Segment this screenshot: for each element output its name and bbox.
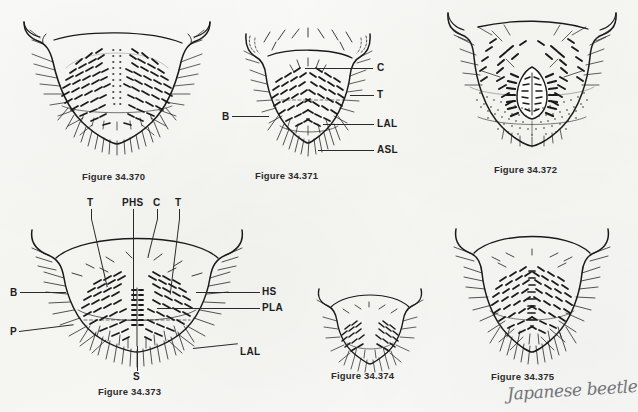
label-t-371: T bbox=[377, 89, 383, 100]
label-b-373: B bbox=[10, 287, 18, 298]
leader-line-phs-373 bbox=[133, 209, 134, 301]
caption-34-373: Figure 34.373 bbox=[98, 386, 161, 397]
label-phs-373: PHS bbox=[122, 197, 143, 208]
caption-34-370: Figure 34.370 bbox=[82, 171, 145, 182]
caption-34-372: Figure 34.372 bbox=[494, 164, 557, 175]
scanned-plate-page: Figure 34.370 bbox=[0, 0, 638, 412]
leader-line-asl-371 bbox=[318, 150, 374, 151]
figure-34-372 bbox=[432, 5, 632, 160]
caption-34-374: Figure 34.374 bbox=[331, 370, 394, 381]
leader-line-t-left-373 bbox=[91, 209, 92, 219]
label-lal-373: LAL bbox=[240, 346, 260, 357]
label-t-left-373: T bbox=[87, 197, 93, 208]
label-s-373: S bbox=[133, 371, 140, 382]
figure-34-370 bbox=[10, 10, 225, 165]
leader-line-b-373 bbox=[20, 292, 66, 293]
caption-34-371: Figure 34.371 bbox=[255, 170, 318, 181]
label-c-371: C bbox=[377, 62, 385, 73]
leader-line-lal-371 bbox=[323, 124, 374, 125]
figure-34-375 bbox=[442, 223, 622, 368]
leader-line-pla-373 bbox=[157, 308, 260, 309]
leader-line-c-373 bbox=[157, 209, 158, 219]
leader-line-b-371 bbox=[232, 116, 269, 117]
leader-line-hs-373 bbox=[196, 292, 260, 293]
label-t-right-373: T bbox=[175, 197, 181, 208]
label-hs-373: HS bbox=[262, 286, 277, 297]
label-asl-371: ASL bbox=[377, 144, 398, 155]
label-b-371: B bbox=[222, 111, 230, 122]
figure-34-371 bbox=[228, 20, 388, 165]
leader-line-t-371 bbox=[350, 95, 374, 96]
label-p-373: P bbox=[10, 326, 17, 337]
leader-line-t-right-373 bbox=[179, 209, 180, 219]
label-lal-371: LAL bbox=[377, 118, 397, 129]
leader-line-c-371 bbox=[305, 68, 373, 69]
figure-34-374 bbox=[305, 285, 435, 373]
caption-34-375: Figure 34.375 bbox=[491, 371, 554, 382]
label-pla-373: PLA bbox=[262, 302, 283, 313]
leader-line-s-373 bbox=[137, 346, 138, 371]
label-c-373: C bbox=[153, 197, 161, 208]
